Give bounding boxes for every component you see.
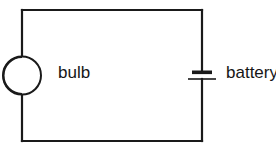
bulb-label: bulb	[58, 64, 90, 81]
battery-plate-positive-icon	[192, 71, 212, 75]
circuit-diagram: bulb battery	[0, 0, 276, 149]
battery-label: battery	[226, 64, 276, 81]
